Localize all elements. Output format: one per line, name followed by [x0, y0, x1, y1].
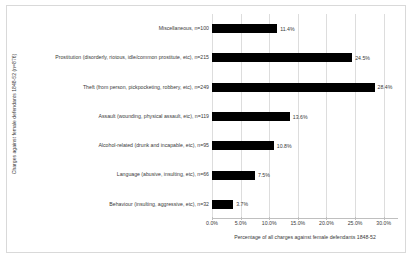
category-label: Behaviour (insulting, aggressive, etc), … — [21, 190, 212, 219]
bar-row[interactable]: 28.4% — [212, 83, 398, 92]
bar-row[interactable]: 11.4% — [212, 24, 398, 33]
bar[interactable] — [212, 83, 375, 92]
category-label-text: Language (abusive, insulting, etc), n=66 — [117, 171, 212, 178]
x-axis-title: Percentage of all charges against female… — [212, 234, 398, 240]
bar-row[interactable]: 10.8% — [212, 141, 398, 150]
x-tick-label: 10.0% — [262, 220, 277, 226]
bar-value-label: 7.5% — [255, 172, 270, 178]
category-label-text: Theft (from person, pickpocketing, robbe… — [83, 84, 212, 91]
y-axis-title-label: Charges against female defendants 1848-5… — [11, 54, 17, 175]
x-axis-ticks: 0.0%5.0%10.0%15.0%20.0%25.0%30.0% — [212, 220, 398, 230]
bar-value-label: 3.7% — [233, 201, 248, 207]
category-label-text: Miscellaneous, n=100 — [159, 25, 212, 32]
category-label: Theft (from person, pickpocketing, robbe… — [21, 73, 212, 102]
category-label: Prostitution (disorderly, riotous, idle/… — [21, 43, 212, 72]
bar[interactable] — [212, 53, 352, 62]
x-tick-label: 5.0% — [235, 220, 247, 226]
bar-row[interactable]: 13.6% — [212, 112, 398, 121]
bar-value-label: 28.4% — [375, 84, 393, 90]
category-label-text: Behaviour (insulting, aggressive, etc), … — [109, 201, 212, 208]
category-label: Alcohol-related (drunk and incapable, et… — [21, 131, 212, 160]
bar[interactable] — [212, 112, 290, 121]
bar[interactable] — [212, 24, 277, 33]
bar-row[interactable]: 7.5% — [212, 171, 398, 180]
category-label-text: Alcohol-related (drunk and incapable, et… — [98, 142, 212, 149]
y-axis-category-labels: Miscellaneous, n=100Prostitution (disord… — [21, 14, 212, 219]
x-tick-label: 20.0% — [319, 220, 334, 226]
x-tick-label: 30.0% — [376, 220, 391, 226]
category-label: Miscellaneous, n=100 — [21, 14, 212, 43]
bar-value-label: 11.4% — [277, 26, 294, 32]
bar-row[interactable]: 3.7% — [212, 200, 398, 209]
bar-value-label: 10.8% — [274, 143, 292, 149]
bar-value-label: 13.6% — [290, 114, 308, 120]
x-tick-label: 25.0% — [348, 220, 363, 226]
plot-area: 11.4%24.5%28.4%13.6%10.8%7.5%3.7% — [212, 14, 398, 219]
category-label: Language (abusive, insulting, etc), n=66 — [21, 160, 212, 189]
bar[interactable] — [212, 141, 274, 150]
bar[interactable] — [212, 171, 255, 180]
category-label: Assault (wounding, physical assault, etc… — [21, 102, 212, 131]
category-label-text: Assault (wounding, physical assault, etc… — [99, 113, 213, 120]
category-label-text: Prostitution (disorderly, riotous, idle/… — [55, 54, 212, 61]
y-axis-title: Charges against female defendants 1848-5… — [7, 6, 21, 222]
x-tick-label: 0.0% — [206, 220, 218, 226]
chart-container: Charges against female defendants 1848-5… — [6, 5, 406, 253]
bar-row[interactable]: 24.5% — [212, 53, 398, 62]
bar-value-label: 24.5% — [352, 55, 370, 61]
x-tick-label: 15.0% — [290, 220, 305, 226]
bar[interactable] — [212, 200, 233, 209]
